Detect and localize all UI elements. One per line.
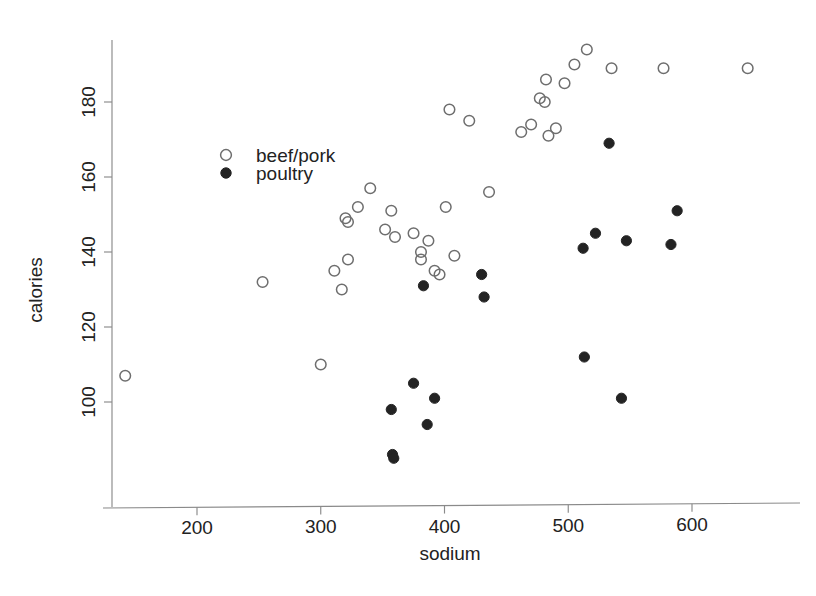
data-point-beef-pork (440, 202, 451, 213)
data-point-beef-pork (551, 123, 562, 134)
data-point-beef-pork (353, 202, 364, 213)
scatter-plot-figure: 100120140160180 200300400500600 calories… (0, 0, 816, 596)
legend: beef/pork poultry (221, 145, 336, 184)
x-tick-label: 400 (429, 516, 461, 537)
legend-marker-poultry (221, 168, 231, 178)
data-point-poultry (578, 243, 588, 253)
data-point-beef-pork (516, 127, 527, 138)
data-point-poultry (590, 228, 600, 238)
data-point-beef-pork (416, 254, 427, 265)
data-point-poultry (621, 236, 631, 246)
data-point-beef-pork (257, 277, 268, 288)
data-point-beef-pork (423, 235, 434, 246)
data-point-beef-pork (582, 44, 593, 55)
legend-label-poultry: poultry (256, 163, 314, 184)
y-tick-label: 100 (78, 386, 99, 418)
data-point-beef-pork (329, 265, 340, 276)
data-point-beef-pork (120, 370, 131, 381)
series-beef-pork (120, 44, 753, 381)
data-point-beef-pork (559, 78, 570, 89)
x-tick-label: 200 (181, 517, 213, 538)
data-point-poultry (422, 419, 432, 429)
data-point-beef-pork (658, 63, 669, 74)
x-axis-title: sodium (419, 543, 480, 564)
data-point-beef-pork (742, 63, 753, 74)
data-point-beef-pork (569, 59, 580, 70)
y-tick-label: 140 (78, 236, 99, 268)
y-axis-ticks: 100120140160180 (78, 86, 113, 418)
data-point-beef-pork (444, 104, 455, 115)
data-point-beef-pork (340, 213, 351, 224)
data-point-beef-pork (541, 74, 552, 85)
x-tick-label: 500 (552, 515, 584, 536)
data-point-poultry (408, 378, 418, 388)
x-tick-label: 300 (305, 516, 337, 537)
data-point-poultry (666, 239, 676, 249)
data-point-beef-pork (315, 359, 326, 370)
y-tick-label: 120 (78, 311, 99, 343)
x-tick-label: 600 (676, 514, 708, 535)
y-tick-label: 160 (78, 161, 99, 193)
data-point-poultry (616, 393, 626, 403)
x-axis-line (103, 503, 800, 508)
data-point-beef-pork (336, 284, 347, 295)
data-point-beef-pork (365, 183, 376, 194)
plot-canvas: 100120140160180 200300400500600 calories… (0, 0, 816, 596)
series-poultry (386, 138, 682, 463)
data-point-beef-pork (606, 63, 617, 74)
data-point-beef-pork (390, 232, 401, 243)
data-point-beef-pork (449, 250, 460, 261)
legend-marker-beef-pork (221, 150, 232, 161)
x-axis-ticks: 200300400500600 (181, 504, 708, 539)
y-tick-label: 180 (78, 86, 99, 118)
data-point-poultry (672, 206, 682, 216)
data-point-beef-pork (343, 217, 354, 228)
data-point-beef-pork (464, 115, 475, 126)
data-point-beef-pork (386, 205, 397, 216)
data-point-poultry (389, 453, 399, 463)
data-point-beef-pork (526, 119, 537, 130)
data-point-poultry (386, 404, 396, 414)
data-point-poultry (479, 292, 489, 302)
data-point-poultry (579, 352, 589, 362)
data-point-beef-pork (343, 254, 354, 265)
data-point-beef-pork (380, 224, 391, 235)
data-point-poultry (430, 393, 440, 403)
data-point-beef-pork (408, 228, 419, 239)
y-axis-title: calories (25, 257, 46, 322)
data-point-poultry (604, 138, 614, 148)
data-point-poultry (477, 269, 487, 279)
data-point-poultry (418, 281, 428, 291)
data-point-beef-pork (484, 187, 495, 198)
